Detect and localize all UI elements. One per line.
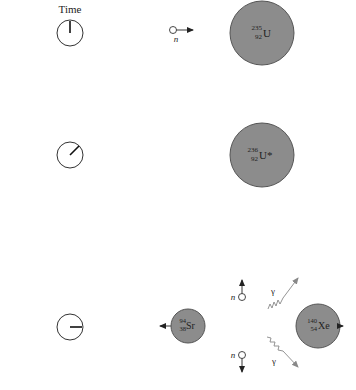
gamma-ray-up: γ [268, 278, 298, 309]
nucleus-u235: 235 92 U [230, 1, 294, 65]
fragment-xe140: 140 54 Xe [296, 304, 343, 348]
atomic-number: 54 [311, 325, 318, 332]
neutron-label: n [174, 34, 179, 44]
mass-number: 235 [252, 24, 263, 32]
neutron-label: n [231, 350, 236, 360]
fission-diagram: Time n 235 92 U 236 92 U* [0, 0, 356, 390]
clock-icon [57, 142, 83, 168]
gamma-label: γ [270, 286, 275, 296]
mass-number: 140 [307, 317, 317, 324]
fragment-sr94: 94 38 Sr [160, 309, 205, 343]
neutron-label: n [231, 292, 236, 302]
element-symbol: U [263, 27, 271, 39]
stage-2: 236 92 U* [57, 123, 294, 187]
gamma-ray-down: γ [267, 337, 298, 367]
mass-number: 236 [248, 146, 259, 154]
gamma-label: γ [271, 356, 276, 366]
atomic-number: 92 [251, 155, 259, 163]
element-symbol: Sr [186, 320, 196, 331]
incoming-neutron: n [170, 27, 194, 45]
stage-1: n 235 92 U [57, 1, 294, 65]
element-symbol: Xe [318, 320, 330, 331]
atomic-number: 92 [255, 33, 263, 41]
element-symbol: U* [259, 149, 272, 161]
clock-icon [57, 20, 83, 46]
stage-3: 94 38 Sr 140 54 Xe n n γ [57, 278, 343, 372]
neutron-down: n [231, 350, 246, 372]
time-label: Time [59, 3, 82, 15]
neutron-up: n [231, 280, 246, 302]
nucleus-u236-excited: 236 92 U* [230, 123, 294, 187]
clock-icon [57, 314, 83, 340]
